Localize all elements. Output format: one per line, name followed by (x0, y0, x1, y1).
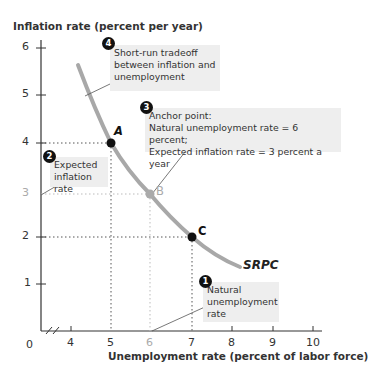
y-tick-6: 6 (22, 40, 29, 53)
y-tick-3: 3 (22, 186, 29, 199)
point-b-label: B (156, 184, 164, 198)
note-3-line-2: Natural unemployment rate = 6 percent; (149, 122, 337, 146)
x-tick-9: 9 (269, 336, 276, 349)
note-3-line-1: Anchor point: (149, 110, 337, 122)
x-tick-4: 4 (67, 336, 74, 349)
badge-1: 1 (199, 275, 212, 288)
y-tick-2: 2 (22, 229, 29, 242)
badge-2: 2 (43, 150, 56, 163)
note-1-line-2: unemployment (207, 296, 275, 308)
note-2-line-2: inflation rate (54, 171, 104, 195)
note-natural-unemployment: Natural unemployment rate (203, 282, 279, 322)
note-4-line-1: Short-run tradeoff (114, 47, 216, 59)
point-a (107, 139, 116, 148)
y-tick-1: 1 (24, 276, 31, 289)
badge-4: 4 (102, 37, 115, 50)
x-tick-5: 5 (107, 336, 114, 349)
note-4-line-3: unemployment (114, 71, 216, 83)
y-tick-5: 5 (22, 87, 29, 100)
x-tick-8: 8 (228, 336, 235, 349)
badge-3: 3 (140, 101, 153, 114)
x-tick-10: 10 (306, 336, 320, 349)
y-tick-4: 4 (22, 135, 29, 148)
note-anchor-point: Anchor point: Natural unemployment rate … (145, 108, 341, 152)
srpc-label: SRPC (243, 258, 278, 272)
point-c-label: C (198, 224, 206, 238)
point-a-label: A (114, 124, 123, 138)
note-expected-inflation: Expected inflation rate (50, 157, 108, 187)
note-1-line-3: rate (207, 308, 275, 320)
origin-label: 0 (26, 338, 33, 351)
point-b (146, 190, 155, 199)
note-1-line-1: Natural (207, 284, 275, 296)
x-tick-7: 7 (188, 336, 195, 349)
note-4-line-2: between inflation and (114, 59, 216, 71)
note-3-line-3: Expected inflation rate = 3 percent a ye… (149, 146, 337, 170)
guide-lines-b (41, 194, 150, 331)
x-tick-6: 6 (146, 336, 153, 349)
point-c (188, 233, 197, 242)
note-2-line-1: Expected (54, 159, 104, 171)
note-short-run-tradeoff: Short-run tradeoff between inflation and… (110, 45, 220, 91)
